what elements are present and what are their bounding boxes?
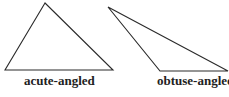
obtuse-angled-label: obtuse-angled (157, 73, 229, 89)
obtuse-triangle (108, 7, 228, 71)
acute-angled-label: acute-angled (24, 73, 95, 89)
acute-triangle (5, 3, 113, 70)
